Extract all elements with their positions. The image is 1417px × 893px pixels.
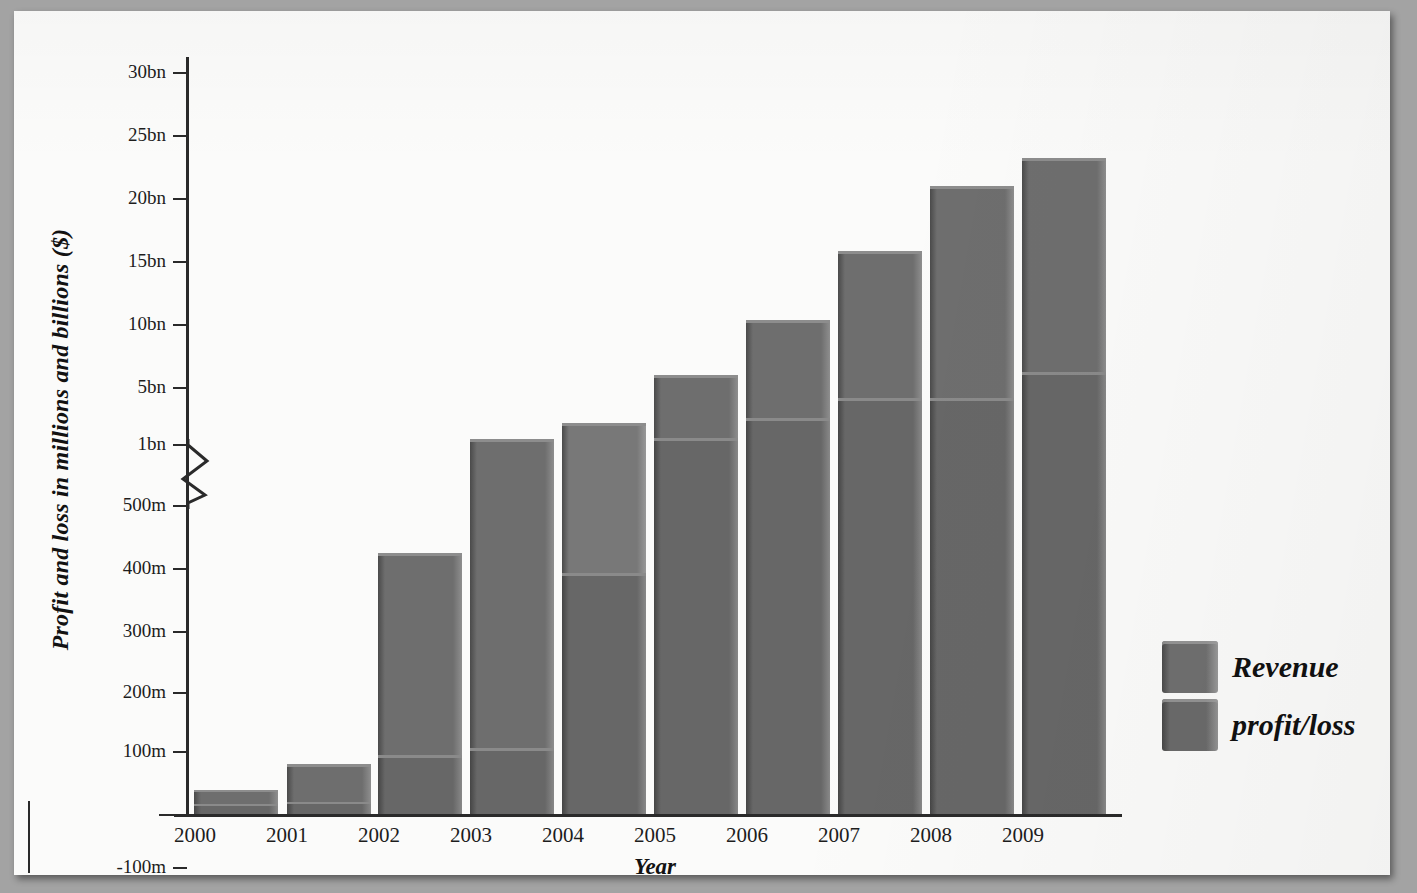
y-tick-label: 200m <box>14 681 166 703</box>
bar-profit-2002[interactable] <box>378 755 462 814</box>
y-tick-label: 25bn <box>14 124 166 146</box>
legend-item-profit-loss[interactable]: profit/loss <box>1162 696 1355 754</box>
y-tick-label: 15bn <box>14 250 166 272</box>
bar-profit-2006[interactable] <box>746 418 830 814</box>
plot-area <box>190 57 1120 814</box>
legend-item-revenue[interactable]: Revenue <box>1162 638 1355 696</box>
y-tick-label: 1bn <box>14 433 166 455</box>
bar-profit-2008[interactable] <box>930 398 1014 814</box>
bar-profit-2009[interactable] <box>1022 372 1106 814</box>
x-axis-title: Year <box>190 854 1120 880</box>
legend-label-revenue: Revenue <box>1232 650 1339 684</box>
x-tick-label-2009: 2009 <box>968 823 1078 848</box>
y-tick-label: -100m <box>14 856 166 878</box>
revenue-swatch-icon <box>1162 641 1218 693</box>
y-axis-line <box>186 57 189 815</box>
y-tick-label: 400m <box>14 557 166 579</box>
x-axis-line <box>174 814 1122 817</box>
bar-chart: 30bn 25bn 20bn 15bn 10bn 5bn 1bn 500m <box>14 11 1390 875</box>
bar-profit-2000[interactable] <box>194 804 278 814</box>
legend-label-profit-loss: profit/loss <box>1232 708 1355 742</box>
y-tick-label: 500m <box>14 494 166 516</box>
chart-legend: Revenue profit/loss <box>1162 638 1355 754</box>
page-edge-mark <box>28 801 30 873</box>
bar-profit-2001[interactable] <box>287 802 371 814</box>
profit-loss-swatch-icon <box>1162 699 1218 751</box>
y-tick-label: 100m <box>14 740 166 762</box>
bar-profit-2007[interactable] <box>838 398 922 814</box>
y-tick-label: 30bn <box>14 61 166 83</box>
bar-profit-2005[interactable] <box>654 438 738 814</box>
y-axis-title: Profit and loss in millions and billions… <box>47 180 74 700</box>
y-tick-label: 10bn <box>14 313 166 335</box>
chart-page: 30bn 25bn 20bn 15bn 10bn 5bn 1bn 500m <box>14 11 1390 875</box>
y-tick-label: 5bn <box>14 376 166 398</box>
y-tick-label: 20bn <box>14 187 166 209</box>
y-tick-label: 300m <box>14 620 166 642</box>
bar-profit-2003[interactable] <box>470 748 554 814</box>
bar-profit-2004[interactable] <box>562 573 646 814</box>
